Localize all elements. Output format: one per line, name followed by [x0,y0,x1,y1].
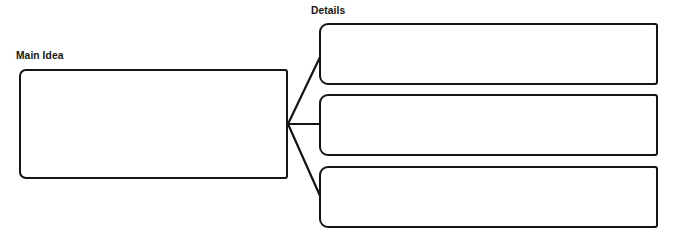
detail-box-2[interactable] [319,94,658,156]
detail-box-3-writing-area[interactable] [321,168,656,226]
main-idea-writing-area[interactable] [21,71,286,177]
connector-to-detail-1 [288,55,321,124]
connector-group [288,55,321,198]
detail-box-1-writing-area[interactable] [321,25,656,83]
detail-box-1[interactable] [319,23,658,85]
detail-box-3[interactable] [319,166,658,228]
main-idea-box[interactable] [19,69,288,179]
main-idea-label: Main Idea [16,49,63,61]
detail-box-2-writing-area[interactable] [321,96,656,154]
details-label: Details [311,4,345,16]
connector-to-detail-3 [288,124,321,198]
